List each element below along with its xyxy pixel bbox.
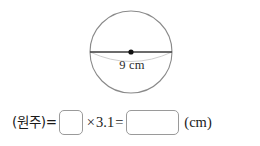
answer-box-result[interactable] xyxy=(126,110,179,135)
center-point-dot xyxy=(128,49,133,54)
circle-figure: 9 cm xyxy=(80,4,184,100)
equation-row: (원주)= × 3.1 = (cm) xyxy=(12,104,252,140)
pi-approximation-value: 3.1 xyxy=(96,114,114,130)
multiplication-operator: × xyxy=(87,114,95,130)
unit-label: (cm) xyxy=(184,114,211,130)
circumference-label: (원주)= xyxy=(12,114,57,130)
equals-operator: = xyxy=(115,114,123,130)
diameter-label: 9 cm xyxy=(80,58,184,72)
worksheet-page: 9 cm (원주)= × 3.1 = (cm) xyxy=(0,0,260,146)
answer-box-diameter[interactable] xyxy=(59,110,83,135)
circle-diagram-svg xyxy=(80,4,184,100)
